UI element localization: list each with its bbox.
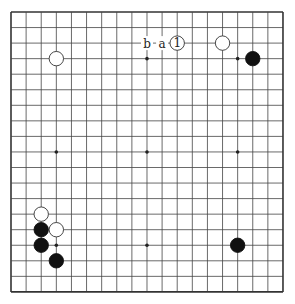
white-stone [34, 207, 48, 221]
point-label-a: a [159, 37, 166, 51]
star-point [55, 150, 59, 154]
star-point [145, 243, 149, 247]
black-stone [34, 223, 48, 237]
star-point [145, 57, 149, 61]
white-stone [215, 36, 229, 50]
go-board: ba 1 [0, 0, 295, 304]
black-stone [49, 254, 63, 268]
white-stone [49, 223, 63, 237]
star-point [236, 57, 240, 61]
black-stone [230, 238, 244, 252]
star-point [145, 150, 149, 154]
star-point [236, 150, 240, 154]
black-stone [246, 51, 260, 65]
black-stone [34, 238, 48, 252]
star-point [55, 243, 59, 247]
point-label-b: b [143, 37, 151, 51]
move-number: 1 [173, 36, 181, 50]
white-stone [49, 51, 63, 65]
